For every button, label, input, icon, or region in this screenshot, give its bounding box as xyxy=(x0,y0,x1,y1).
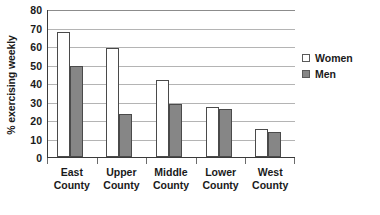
x-axis-ticks xyxy=(47,158,295,164)
legend-label: Men xyxy=(315,69,336,80)
x-axis-category-label: WestCounty xyxy=(252,166,288,191)
bar-men-lower-county xyxy=(219,109,232,157)
bars-layer xyxy=(48,10,295,157)
y-axis-tick-label: 40 xyxy=(30,79,42,90)
x-axis-tick xyxy=(97,158,98,164)
category-label-line2: County xyxy=(54,179,90,192)
bar-chart: % exercising weekly 80706050403020100 Ea… xyxy=(0,0,380,215)
x-axis-tick xyxy=(196,158,197,164)
bar-women-east-county xyxy=(57,32,70,157)
y-axis-tick-label: 10 xyxy=(30,134,42,145)
bar-women-lower-county xyxy=(206,107,219,157)
category-label-line1: West xyxy=(252,166,288,179)
y-axis-tick-label: 0 xyxy=(36,153,42,164)
x-axis-category-labels: EastCountyUpperCountyMiddleCountyLowerCo… xyxy=(40,166,302,210)
bar-group xyxy=(147,10,197,157)
x-axis-tick xyxy=(47,158,48,164)
category-label-line1: East xyxy=(54,166,90,179)
bar-women-west-county xyxy=(255,129,268,157)
x-axis-category-label: EastCounty xyxy=(54,166,90,191)
y-axis-tick-label: 30 xyxy=(30,97,42,108)
y-axis-tick-label: 70 xyxy=(30,23,42,34)
plot-area xyxy=(47,10,295,158)
x-axis-category-label: LowerCounty xyxy=(203,166,239,191)
legend-item-women[interactable]: Women xyxy=(302,53,378,64)
x-axis-tick xyxy=(294,158,295,164)
category-label-line2: County xyxy=(203,179,239,192)
bar-group xyxy=(197,10,247,157)
x-axis-tick xyxy=(146,158,147,164)
legend-swatch-women-icon xyxy=(302,54,310,62)
bar-women-upper-county xyxy=(106,48,119,157)
category-label-line2: County xyxy=(153,179,189,192)
category-label-line1: Lower xyxy=(203,166,239,179)
category-label-line2: County xyxy=(252,179,288,192)
category-label-line2: County xyxy=(103,179,139,192)
legend: WomenMen xyxy=(302,53,378,84)
x-axis-category-label: MiddleCounty xyxy=(153,166,189,191)
y-axis-title: % exercising weekly xyxy=(0,0,22,170)
x-axis-tick xyxy=(245,158,246,164)
legend-item-men[interactable]: Men xyxy=(302,69,378,80)
y-axis-tick-label: 50 xyxy=(30,60,42,71)
bar-group xyxy=(48,10,98,157)
legend-label: Women xyxy=(315,53,353,64)
bar-men-upper-county xyxy=(119,114,132,157)
y-axis-title-text: % exercising weekly xyxy=(5,35,17,135)
category-label-line1: Middle xyxy=(153,166,189,179)
bar-women-middle-county xyxy=(156,80,169,157)
bar-group xyxy=(98,10,148,157)
category-label-line1: Upper xyxy=(103,166,139,179)
legend-swatch-men-icon xyxy=(302,70,310,78)
bar-men-east-county xyxy=(70,66,83,157)
y-axis-tick-label: 60 xyxy=(30,42,42,53)
bar-men-middle-county xyxy=(169,104,182,157)
y-axis-tick-label: 20 xyxy=(30,116,42,127)
y-axis-tick-labels: 80706050403020100 xyxy=(20,10,44,158)
bar-group xyxy=(246,10,296,157)
x-axis-category-label: UpperCounty xyxy=(103,166,139,191)
y-axis-tick-label: 80 xyxy=(30,5,42,16)
bar-men-west-county xyxy=(268,132,281,157)
